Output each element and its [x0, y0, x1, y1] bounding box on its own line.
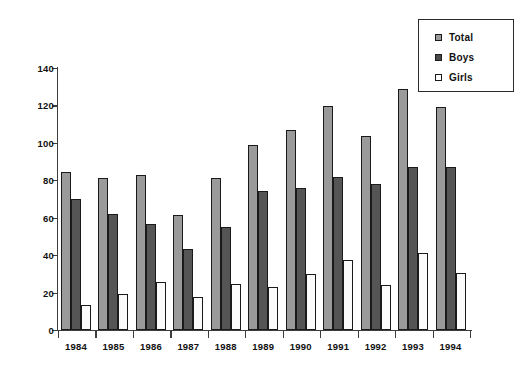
bar-group — [361, 68, 391, 330]
bar-girls-1985 — [118, 294, 128, 330]
bar-total-1989 — [248, 145, 258, 330]
bar-girls-1987 — [193, 297, 203, 330]
bar-boys-1985 — [108, 214, 118, 330]
legend-item-boys[interactable]: Boys — [435, 47, 513, 67]
y-tick-label: 40 — [43, 250, 54, 261]
x-axis-label-1993: 1993 — [402, 341, 424, 352]
plot-area: 020406080100120140 — [58, 68, 470, 330]
bar-total-1984 — [61, 172, 71, 330]
x-axis-label-1991: 1991 — [327, 341, 349, 352]
bar-girls-1986 — [156, 282, 166, 330]
x-axis-label-1988: 1988 — [215, 341, 237, 352]
x-tick-mark — [95, 331, 96, 338]
x-axis-label-1985: 1985 — [102, 341, 124, 352]
bar-girls-1989 — [268, 287, 278, 330]
bar-boys-1986 — [146, 224, 156, 330]
boys-swatch-icon — [435, 54, 442, 61]
bar-boys-1987 — [183, 249, 193, 330]
x-axis-label-1992: 1992 — [365, 341, 387, 352]
bar-group — [98, 68, 128, 330]
x-axis-line — [57, 330, 472, 331]
legend-label-boys: Boys — [449, 52, 474, 63]
x-axis-label-1990: 1990 — [290, 341, 312, 352]
bar-boys-1989 — [258, 191, 268, 330]
x-tick-mark — [320, 331, 321, 338]
legend-label-girls: Girls — [449, 72, 473, 83]
x-tick-mark — [358, 331, 359, 338]
x-axis-label-1989: 1989 — [252, 341, 274, 352]
bar-total-1988 — [211, 178, 221, 330]
x-tick-mark — [470, 331, 471, 338]
x-axis-label-1986: 1986 — [140, 341, 162, 352]
x-axis-label-1994: 1994 — [440, 341, 462, 352]
x-tick-mark — [58, 331, 59, 338]
x-axis-label-1987: 1987 — [177, 341, 199, 352]
bar-girls-1990 — [306, 274, 316, 330]
bar-total-1987 — [173, 215, 183, 330]
y-tick-label: 80 — [43, 175, 54, 186]
y-tick-label: 100 — [38, 137, 54, 148]
chart-legend: TotalBoysGirls — [418, 19, 514, 92]
legend-label-total: Total — [449, 32, 473, 43]
x-tick-mark — [208, 331, 209, 338]
bar-group — [398, 68, 428, 330]
bar-group — [173, 68, 203, 330]
bar-boys-1990 — [296, 188, 306, 330]
bar-group — [61, 68, 91, 330]
legend-item-total[interactable]: Total — [435, 27, 513, 47]
bar-group — [323, 68, 353, 330]
bar-boys-1991 — [333, 177, 343, 330]
bar-boys-1993 — [408, 167, 418, 330]
bar-group — [286, 68, 316, 330]
bar-girls-1991 — [343, 260, 353, 330]
bar-total-1991 — [323, 106, 333, 330]
x-tick-mark — [433, 331, 434, 338]
bar-total-1992 — [361, 136, 371, 330]
x-tick-mark — [170, 331, 171, 338]
y-tick-label: 20 — [43, 287, 54, 298]
x-tick-mark — [133, 331, 134, 338]
bar-group — [136, 68, 166, 330]
y-tick-label: 140 — [38, 63, 54, 74]
total-swatch-icon — [435, 34, 442, 41]
bar-total-1994 — [436, 107, 446, 330]
bar-group — [248, 68, 278, 330]
x-tick-mark — [245, 331, 246, 338]
bar-girls-1992 — [381, 285, 391, 330]
bar-group — [211, 68, 241, 330]
bar-total-1990 — [286, 130, 296, 330]
bar-girls-1984 — [81, 305, 91, 330]
y-tick-label: 60 — [43, 212, 54, 223]
bar-boys-1992 — [371, 184, 381, 330]
x-axis-label-1984: 1984 — [65, 341, 87, 352]
bar-girls-1994 — [456, 273, 466, 330]
bar-chart: 020406080100120140 TotalBoysGirls 198419… — [0, 0, 531, 376]
legend-item-girls[interactable]: Girls — [435, 67, 513, 87]
y-tick-label: 120 — [38, 100, 54, 111]
bar-total-1985 — [98, 178, 108, 330]
bar-total-1986 — [136, 175, 146, 330]
bar-girls-1988 — [231, 284, 241, 330]
y-tick-label: 0 — [49, 325, 54, 336]
x-tick-mark — [395, 331, 396, 338]
bar-boys-1988 — [221, 227, 231, 330]
bar-boys-1994 — [446, 167, 456, 330]
bar-total-1993 — [398, 89, 408, 330]
bar-boys-1984 — [71, 199, 81, 330]
girls-swatch-icon — [435, 74, 442, 81]
bar-group — [436, 68, 466, 330]
x-tick-mark — [283, 331, 284, 338]
bar-girls-1993 — [418, 253, 428, 330]
